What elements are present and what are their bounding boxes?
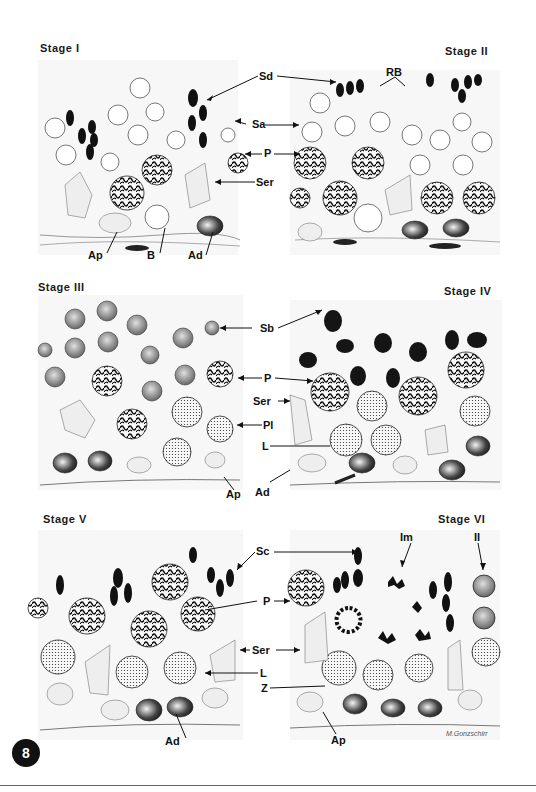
bottom-rule bbox=[0, 785, 536, 786]
label-p-stage-i-ii: P bbox=[264, 148, 271, 159]
label-ap-stage-iii: Ap bbox=[226, 489, 241, 500]
label-sd: Sd bbox=[259, 71, 273, 82]
stage-iv-panel bbox=[290, 300, 502, 490]
label-ad-stage-v: Ad bbox=[165, 736, 180, 747]
label-ser-stage-v-vi: Ser bbox=[252, 645, 270, 656]
label-z: Z bbox=[261, 683, 268, 694]
label-sb: Sb bbox=[260, 323, 274, 334]
label-rb: RB bbox=[386, 67, 402, 78]
stage-v-panel bbox=[28, 530, 243, 740]
label-p-stage-iii-iv: P bbox=[264, 373, 271, 384]
label-ii: II bbox=[474, 532, 480, 543]
label-sc: Sc bbox=[256, 546, 269, 557]
stage-iii-panel bbox=[38, 295, 243, 490]
stage-vi-panel bbox=[288, 530, 500, 740]
label-b: B bbox=[147, 250, 155, 261]
label-sa: Sa bbox=[252, 119, 265, 130]
artist-signature: M.Gonzschirr bbox=[446, 730, 488, 737]
label-ap-stage-vi: Ap bbox=[331, 735, 346, 746]
label-l-stage-v: L bbox=[260, 668, 267, 679]
label-im: Im bbox=[400, 532, 413, 543]
label-l-stage-iv: L bbox=[262, 441, 269, 452]
figure-number-badge: 8 bbox=[12, 739, 40, 767]
label-ad-stage-iv: Ad bbox=[255, 487, 270, 498]
label-pl: Pl bbox=[263, 420, 273, 431]
figure-number: 8 bbox=[22, 745, 30, 761]
label-ap-stage-i: Ap bbox=[88, 250, 103, 261]
label-ad-stage-i: Ad bbox=[188, 250, 203, 261]
label-ser-stage-iv: Ser bbox=[253, 396, 271, 407]
label-ser-stage-i: Ser bbox=[256, 177, 274, 188]
label-p-stage-v-vi: P bbox=[263, 596, 270, 607]
